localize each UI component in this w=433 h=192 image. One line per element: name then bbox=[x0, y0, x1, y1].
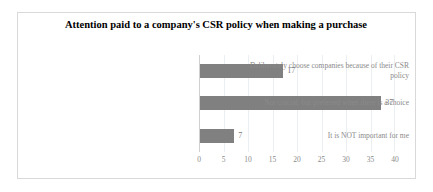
x-tick-label: 15 bbox=[269, 155, 277, 164]
category-label-text: Deliberately choose companies because of… bbox=[239, 61, 415, 80]
x-axis: 0510152025303540 bbox=[199, 152, 395, 168]
x-tick-label: 10 bbox=[244, 155, 252, 164]
category-label-deliberately-choose: Deliberately choose companies because of… bbox=[239, 55, 415, 87]
category-label-not-important: It is NOT important for me bbox=[239, 120, 415, 152]
x-tick-label: 40 bbox=[391, 155, 399, 164]
bar-not-important[interactable] bbox=[200, 129, 234, 143]
category-label-text: Not crucial, but preferred when there is… bbox=[239, 98, 415, 108]
category-label-not-crucial: Not crucial, but preferred when there is… bbox=[239, 87, 415, 120]
y-axis-line bbox=[199, 55, 200, 152]
x-tick-label: 35 bbox=[367, 155, 375, 164]
x-tick-label: 25 bbox=[318, 155, 326, 164]
x-tick-label: 5 bbox=[222, 155, 226, 164]
x-tick-label: 30 bbox=[342, 155, 350, 164]
x-tick-label: 0 bbox=[197, 155, 201, 164]
category-label-text: It is NOT important for me bbox=[239, 131, 415, 141]
x-tick-label: 20 bbox=[293, 155, 301, 164]
chart-container: Attention paid to a company's CSR policy… bbox=[17, 12, 416, 179]
chart-title: Attention paid to a company's CSR policy… bbox=[40, 18, 392, 31]
